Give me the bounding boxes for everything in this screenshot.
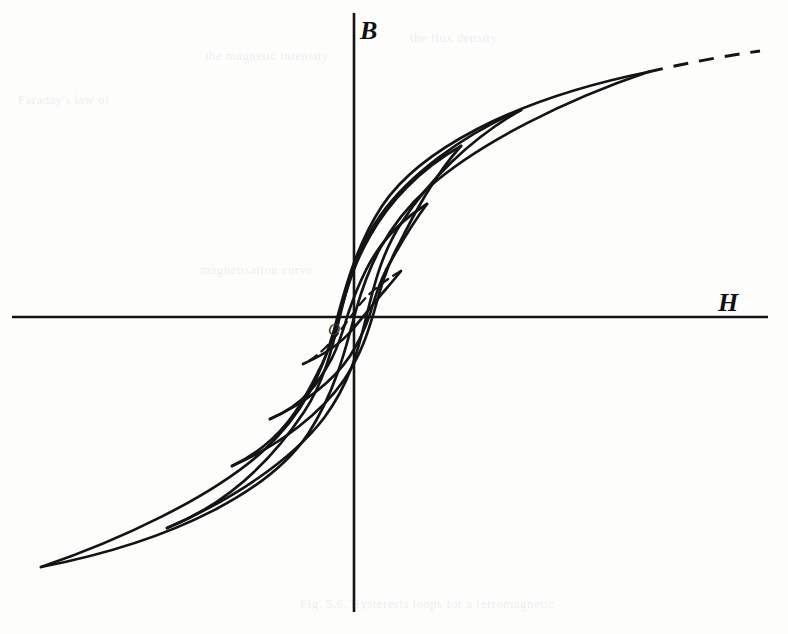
hysteresis-loops-group	[41, 72, 648, 567]
loop-2-upper-branch	[167, 110, 521, 528]
loop-3-upper-branch	[232, 146, 461, 466]
loop-1-outer-upper-branch	[41, 72, 648, 567]
loop-1-outer-lower-branch	[41, 72, 648, 567]
loop-2-lower-branch	[167, 110, 521, 528]
axes-group	[12, 13, 768, 612]
hysteresis-figure: the magnetic intensity Faraday's law of …	[0, 0, 788, 634]
axis-label-b: B	[360, 16, 377, 46]
axis-label-h: H	[718, 288, 738, 318]
saturation-extension-dashed	[648, 51, 760, 72]
hysteresis-plot-svg	[0, 0, 788, 634]
origin-label: O	[328, 320, 340, 340]
